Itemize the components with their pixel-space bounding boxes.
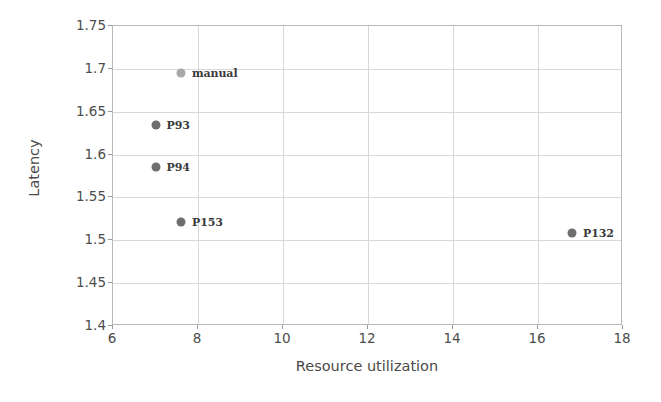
scatter-plot-figure: manualP93P94P153P132 1.41.451.51.551.61.… <box>0 0 661 402</box>
y-tick-mark <box>108 282 112 283</box>
gridline-horizontal <box>113 240 621 241</box>
gridline-horizontal <box>113 283 621 284</box>
gridline-horizontal <box>113 155 621 156</box>
gridline-vertical <box>283 26 284 324</box>
x-tick-mark <box>367 325 368 329</box>
x-tick-mark <box>282 325 283 329</box>
data-point-manual[interactable] <box>177 69 186 78</box>
x-tick-label: 8 <box>193 330 202 346</box>
y-tick-mark <box>108 25 112 26</box>
y-tick-label: 1.5 <box>8 231 106 247</box>
x-tick-label: 12 <box>358 330 375 346</box>
data-point-label-P93: P93 <box>167 118 190 131</box>
x-tick-mark <box>537 325 538 329</box>
data-point-label-P132: P132 <box>583 227 614 240</box>
x-tick-label: 10 <box>273 330 290 346</box>
y-tick-mark <box>108 154 112 155</box>
data-point-P94[interactable] <box>151 163 160 172</box>
x-tick-label: 16 <box>528 330 545 346</box>
y-tick-mark <box>108 111 112 112</box>
y-tick-label: 1.7 <box>8 60 106 76</box>
y-axis-title: Latency <box>26 108 42 228</box>
x-tick-mark <box>622 325 623 329</box>
y-tick-label: 1.45 <box>8 274 106 290</box>
data-point-P132[interactable] <box>568 229 577 238</box>
x-tick-mark <box>197 325 198 329</box>
y-tick-mark <box>108 239 112 240</box>
y-tick-mark <box>108 196 112 197</box>
y-tick-mark <box>108 68 112 69</box>
x-axis-tick-labels: 681012141618 <box>0 330 661 352</box>
x-tick-label: 18 <box>613 330 630 346</box>
x-tick-mark <box>112 325 113 329</box>
data-point-label-manual: manual <box>192 67 237 80</box>
gridline-vertical <box>538 26 539 324</box>
gridline-horizontal <box>113 197 621 198</box>
data-point-P93[interactable] <box>151 120 160 129</box>
data-point-P153[interactable] <box>177 218 186 227</box>
x-tick-label: 6 <box>108 330 117 346</box>
y-tick-label: 1.55 <box>8 188 106 204</box>
x-tick-label: 14 <box>443 330 460 346</box>
data-point-label-P94: P94 <box>167 161 190 174</box>
gridline-horizontal <box>113 69 621 70</box>
y-tick-label: 1.6 <box>8 146 106 162</box>
plot-area: manualP93P94P153P132 <box>112 25 622 325</box>
data-point-label-P153: P153 <box>192 216 223 229</box>
gridline-vertical <box>368 26 369 324</box>
y-tick-label: 1.65 <box>8 103 106 119</box>
gridline-horizontal <box>113 112 621 113</box>
x-tick-mark <box>452 325 453 329</box>
x-axis-title: Resource utilization <box>112 358 622 374</box>
y-tick-label: 1.75 <box>8 17 106 33</box>
gridline-vertical <box>453 26 454 324</box>
